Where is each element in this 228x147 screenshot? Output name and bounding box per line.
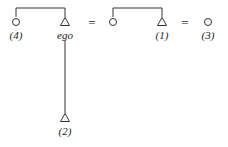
female-node-4 bbox=[13, 19, 20, 26]
label-ego: ego bbox=[57, 29, 73, 41]
male-node-1 bbox=[158, 18, 167, 26]
female-node-3 bbox=[205, 19, 212, 26]
sibling-link-left bbox=[16, 8, 65, 17]
label-4: (4) bbox=[10, 29, 23, 41]
label-2: (2) bbox=[59, 125, 72, 137]
kinship-diagram bbox=[0, 0, 228, 147]
male-node-2 bbox=[61, 114, 70, 122]
label-1: (1) bbox=[156, 29, 169, 41]
male-node-ego bbox=[61, 18, 70, 26]
sibling-link-right bbox=[113, 8, 162, 17]
label-3: (3) bbox=[202, 29, 215, 41]
female-node-unlabeled bbox=[110, 19, 117, 26]
marriage-equals-2: = bbox=[181, 15, 188, 31]
marriage-equals-1: = bbox=[88, 15, 95, 31]
